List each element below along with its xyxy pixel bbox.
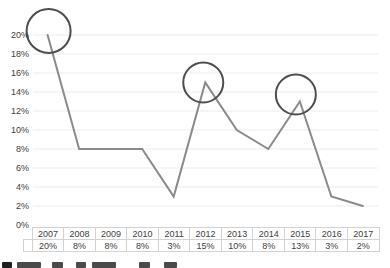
- y-tick-label-8: 8%: [0, 144, 29, 154]
- annotation-circle-2007: [27, 9, 71, 53]
- data-series-line: [48, 35, 363, 206]
- value-cell-2014: 8%: [252, 239, 285, 252]
- y-tick-label-14: 14%: [0, 87, 29, 97]
- value-cell-2013: 10%: [221, 239, 254, 252]
- caption-glyph-top: [139, 262, 150, 268]
- value-cell-2009: 8%: [95, 239, 128, 252]
- y-tick-label-10: 10%: [0, 125, 29, 135]
- caption-glyph-top: [17, 262, 41, 268]
- y-tick-label-12: 12%: [0, 106, 29, 116]
- caption-glyph-top: [164, 262, 177, 268]
- value-cell-2010: 8%: [126, 239, 159, 252]
- y-tick-label-4: 4%: [0, 182, 29, 192]
- caption-glyph-top: [76, 262, 86, 268]
- value-cell-2012: 15%: [189, 239, 222, 252]
- y-tick-label-20: 20%: [0, 30, 29, 40]
- y-tick-label-18: 18%: [0, 49, 29, 59]
- y-tick-label-0: 0%: [0, 220, 29, 230]
- caption-glyph-top: [2, 262, 12, 268]
- caption-glyph-top: [92, 262, 116, 268]
- y-tick-label-16: 16%: [0, 68, 29, 78]
- value-cell-2016: 3%: [315, 239, 348, 252]
- annotation-circle-2012: [183, 63, 223, 103]
- caption-glyph-top: [52, 262, 63, 268]
- value-cell-2007: 20%: [32, 239, 65, 252]
- value-cell-2015: 13%: [284, 239, 317, 252]
- value-cell-2011: 3%: [158, 239, 191, 252]
- value-cell-2008: 8%: [63, 239, 96, 252]
- chart-figure: 0%2%4%6%8%10%12%14%16%18%20% 200720%2008…: [0, 0, 390, 268]
- y-tick-label-2: 2%: [0, 201, 29, 211]
- value-cell-2017: 2%: [347, 239, 380, 252]
- y-tick-label-6: 6%: [0, 163, 29, 173]
